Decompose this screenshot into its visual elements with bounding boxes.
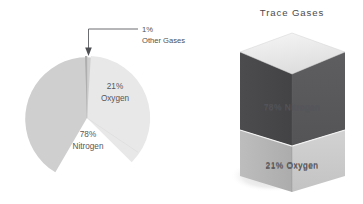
block-oxygen-label: 21% Oxygen — [266, 160, 319, 170]
callout-percent-label: 1% — [142, 25, 153, 34]
figure-canvas: 1% Other Gases 21% Oxygen 78% Nitrogen — [0, 0, 363, 204]
block-title: Trace Gases — [260, 7, 324, 18]
figure-root: 1% Other Gases 21% Oxygen 78% Nitrogen — [0, 0, 363, 204]
pie-chart-group: 1% Other Gases 21% Oxygen 78% Nitrogen — [15, 25, 186, 176]
pie-label-oxygen-percent: 21% — [107, 82, 123, 91]
callout-arrowhead-icon — [85, 48, 92, 57]
callout-name-label: Other Gases — [142, 36, 185, 45]
pie-label-nitrogen-name: Nitrogen — [73, 142, 104, 151]
callout-elbow-line — [89, 29, 139, 48]
block-nitrogen-label: 78% Nitrogen — [264, 102, 321, 112]
pie-label-oxygen-name: Oxygen — [101, 94, 130, 103]
trace-gases-block-group: Trace Gases 78% Nitrogen 78% Nitrogen 21… — [230, 7, 345, 192]
pie-label-nitrogen-percent: 78% — [80, 130, 96, 139]
